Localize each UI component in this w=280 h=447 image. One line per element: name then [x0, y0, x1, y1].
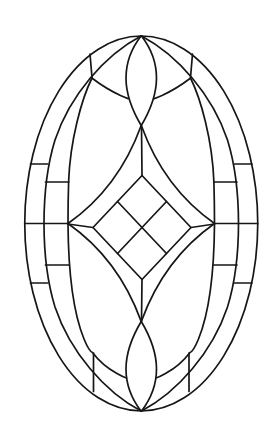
wing-divider-top-left — [90, 54, 92, 78]
arch-curve-top-left-mirror-x — [191, 78, 215, 224]
arch-curve-top-left — [68, 78, 92, 224]
petal-round-bottom-left — [68, 224, 127, 379]
connector-top — [142, 126, 143, 176]
stained-glass-pattern — [0, 0, 280, 447]
connector-bottom — [142, 280, 143, 322]
wing-base-top-left-mirror-x — [154, 79, 190, 99]
wing-base-top-left — [93, 79, 129, 99]
stained-glass-pattern-canvas — [0, 0, 280, 447]
wing-divider-top-left-mirror-x — [191, 54, 193, 78]
petal-round-bottom-left-mirror-x — [156, 224, 215, 379]
